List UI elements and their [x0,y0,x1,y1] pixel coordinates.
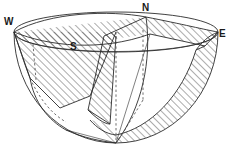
label-west: W [4,16,14,27]
hemisphere-figure: W N E S [0,0,230,148]
hemisphere-diagram-canvas: W N E S [0,0,230,148]
label-south: S [70,41,77,52]
label-east: E [219,28,226,39]
east-lune-region [116,32,218,143]
label-north: N [142,2,149,13]
region-east-lune [116,32,218,143]
